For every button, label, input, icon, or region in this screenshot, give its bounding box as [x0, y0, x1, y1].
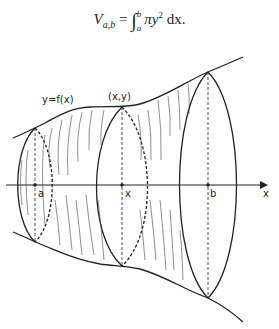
label-point: (x,y) — [108, 91, 131, 102]
label-x-axis: x — [263, 188, 269, 199]
label-b: b — [210, 188, 216, 199]
point-x — [120, 183, 124, 187]
label-curve: y=f(x) — [42, 94, 74, 105]
point-b — [206, 183, 210, 187]
surface-hatching — [21, 84, 190, 280]
label-a: a — [38, 188, 44, 199]
point-a — [33, 183, 37, 187]
label-x-point: x — [125, 188, 131, 199]
cross-section-x-front — [97, 107, 123, 266]
solid-of-revolution-diagram: a x b x y=f(x) (x,y) — [0, 0, 279, 329]
bottom-curve — [13, 232, 243, 322]
